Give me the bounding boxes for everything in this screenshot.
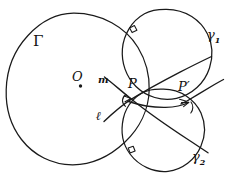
- chord-p-to-p-prime: [129, 102, 189, 108]
- label-circle-gamma-1: γ1: [207, 28, 220, 44]
- label-gamma-2-subscript: 2: [200, 157, 206, 167]
- right-angle-marker-bottom: [128, 146, 135, 153]
- label-circle-gamma-2: γ2: [192, 150, 205, 166]
- label-point-p: P: [128, 77, 137, 90]
- label-gamma-1-subscript: 1: [215, 35, 221, 45]
- label-center-o: O: [72, 70, 83, 83]
- geometry-diagram: Γ O m ℓ P P′ γ1 γ2: [0, 0, 235, 178]
- line-m: [105, 77, 209, 153]
- label-gamma-2-glyph: γ: [192, 149, 200, 164]
- label-gamma-1-glyph: γ: [207, 27, 215, 42]
- line-through-p-prime-upper: [187, 80, 224, 102]
- label-big-circle-gamma: Γ: [33, 34, 43, 49]
- center-point-dot: [79, 84, 82, 87]
- angle-arc-at-p-prime: [191, 102, 193, 113]
- label-line-ell: ℓ: [96, 110, 101, 122]
- label-point-p-prime: P′: [178, 80, 190, 93]
- label-line-m: m: [98, 75, 109, 85]
